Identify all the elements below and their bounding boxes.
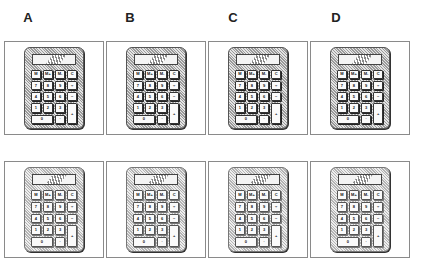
calculator-key: − — [67, 92, 77, 101]
keypad: MM+M-C789÷456−123+0· — [337, 190, 383, 246]
calculator-key: 4 — [133, 214, 143, 224]
calculator-panel-b1: MM+M-C789÷456−123+0· — [106, 41, 206, 135]
calculator-key: · — [55, 115, 65, 124]
calculator-key: + — [67, 103, 77, 124]
calculator-key: 3 — [157, 103, 167, 112]
calculator-key: ÷ — [169, 81, 179, 90]
calculator-key: · — [157, 115, 167, 124]
calculator-panel-c1: MM+M-C789÷456−123+0· — [208, 41, 308, 135]
calculator-key: + — [169, 103, 179, 124]
calculator-key: 1 — [337, 225, 347, 235]
calculator-key: · — [361, 115, 371, 124]
calculator-key: M+ — [43, 190, 53, 200]
calculator-key: ÷ — [169, 202, 179, 212]
calculator-key: ÷ — [67, 81, 77, 90]
calculator-key: 0 — [337, 237, 359, 247]
calculator-key: 6 — [55, 214, 65, 224]
calculator-key: M- — [259, 70, 269, 79]
calculator-key: M+ — [145, 190, 155, 200]
calculator-key: · — [259, 115, 269, 124]
calculator-key: C — [271, 190, 281, 200]
calculator-key: 6 — [259, 92, 269, 101]
calculator-key: M — [337, 190, 347, 200]
calculator-panel-c2: MM+M-C789÷456−123+0· — [208, 161, 308, 258]
calculator-key: M — [133, 70, 143, 79]
calculator-key: 7 — [337, 202, 347, 212]
calculator-key: 8 — [247, 81, 257, 90]
calculator-display — [32, 174, 76, 186]
calculator-key: M — [31, 70, 41, 79]
calculator-key: 5 — [349, 214, 359, 224]
calculator-key: 7 — [337, 81, 347, 90]
calculator-key: − — [169, 214, 179, 224]
calculator-key: 9 — [361, 202, 371, 212]
calculator-body: MM+M-C789÷456−123+0· — [330, 47, 390, 129]
calculator-key: M+ — [349, 190, 359, 200]
keypad: MM+M-C789÷456−123+0· — [337, 70, 383, 124]
calculator-panel-a2: MM+M-C789÷456−123+0· — [4, 161, 104, 258]
calculator-key: 4 — [337, 92, 347, 101]
calculator-key: 2 — [145, 103, 155, 112]
calculator-key: − — [373, 92, 383, 101]
calculator-key: M+ — [43, 70, 53, 79]
calculator-key: 2 — [43, 225, 53, 235]
calculator-key: 8 — [349, 81, 359, 90]
calculator-key: 0 — [235, 237, 257, 247]
calculator-key: 6 — [259, 214, 269, 224]
calculator-panel-d1: MM+M-C789÷456−123+0· — [310, 41, 410, 135]
calculator-key: M- — [157, 70, 167, 79]
calculator-key: − — [169, 92, 179, 101]
calculator-key: 5 — [145, 214, 155, 224]
calculator-key: 7 — [31, 81, 41, 90]
column-label-b: B — [120, 10, 140, 25]
calculator-key: − — [271, 92, 281, 101]
calculator-key: 9 — [259, 81, 269, 90]
calculator-key: 2 — [349, 225, 359, 235]
calculator-body: MM+M-C789÷456−123+0· — [228, 167, 288, 252]
calculator-key: 9 — [259, 202, 269, 212]
calculator-key: 5 — [247, 214, 257, 224]
calculator-key: 1 — [235, 225, 245, 235]
calculator-key: 8 — [247, 202, 257, 212]
calculator-key: C — [271, 70, 281, 79]
calculator-key: 6 — [157, 92, 167, 101]
calculator-key: M — [31, 190, 41, 200]
calculator-key: 3 — [259, 225, 269, 235]
calculator-key: 7 — [31, 202, 41, 212]
calculator-key: 5 — [43, 214, 53, 224]
calculator-key: 5 — [43, 92, 53, 101]
calculator-key: 0 — [337, 115, 359, 124]
calculator-key: + — [271, 103, 281, 124]
calculator-key: 8 — [145, 202, 155, 212]
calculator-key: C — [67, 70, 77, 79]
calculator-key: 5 — [349, 92, 359, 101]
calculator-key: 1 — [133, 103, 143, 112]
calculator-key: 8 — [43, 81, 53, 90]
column-label-d: D — [326, 10, 346, 25]
calculator-key: 3 — [361, 103, 371, 112]
calculator-key: 1 — [31, 103, 41, 112]
calculator-body: MM+M-C789÷456−123+0· — [228, 47, 288, 129]
calculator-key: ÷ — [271, 202, 281, 212]
calculator-key: 6 — [157, 214, 167, 224]
calculator-key: C — [67, 190, 77, 200]
calculator-key: M — [337, 70, 347, 79]
calculator-key: 2 — [145, 225, 155, 235]
calculator-key: C — [169, 70, 179, 79]
calculator-body: MM+M-C789÷456−123+0· — [330, 167, 390, 252]
calculator-key: 0 — [31, 237, 53, 247]
calculator-key: M — [235, 70, 245, 79]
calculator-body: MM+M-C789÷456−123+0· — [24, 167, 84, 252]
calculator-display — [134, 174, 178, 186]
display-glare — [250, 175, 271, 185]
calculator-panel-d2: MM+M-C789÷456−123+0· — [310, 161, 410, 258]
calculator-key: + — [271, 225, 281, 246]
display-glare — [46, 175, 67, 185]
calculator-key: 3 — [259, 103, 269, 112]
calculator-key: 5 — [145, 92, 155, 101]
calculator-key: 2 — [43, 103, 53, 112]
calculator-key: + — [373, 103, 383, 124]
calculator-key: M — [235, 190, 245, 200]
calculator-key: M- — [361, 70, 371, 79]
calculator-key: · — [361, 237, 371, 247]
